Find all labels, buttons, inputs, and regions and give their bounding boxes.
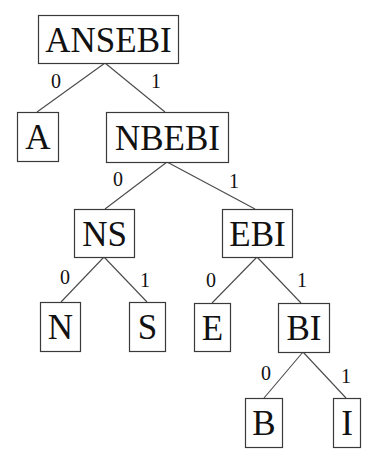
edge-line [37, 63, 105, 112]
node-label: NS [82, 215, 127, 254]
node-label: ANSEBI [45, 21, 171, 60]
node-i: I [334, 399, 361, 448]
edge-label: 0 [60, 266, 70, 288]
edge-bi-b: 0 [261, 352, 303, 398]
edge-label: 1 [229, 170, 239, 192]
edge-label: 1 [151, 70, 161, 92]
edge-line [167, 162, 255, 209]
edge-line [257, 257, 301, 303]
node-label: B [252, 404, 275, 443]
edge-label: 0 [113, 168, 123, 190]
edge-label: 1 [297, 269, 307, 291]
edge-ebi-bi: 1 [257, 257, 307, 303]
edge-ansebi-a: 0 [37, 63, 105, 112]
node-b: B [246, 399, 283, 448]
edge-label: 1 [140, 269, 150, 291]
edge-nbebi-ebi: 1 [167, 162, 255, 209]
node-label: A [25, 118, 51, 157]
node-a: A [18, 113, 59, 162]
edge-ns-s: 1 [104, 257, 150, 302]
edge-ebi-e: 0 [206, 257, 257, 303]
node-ns: NS [75, 210, 135, 258]
node-label: E [202, 309, 223, 348]
node-label: S [138, 308, 157, 347]
node-label: NBEBI [115, 119, 220, 158]
edge-bi-i: 1 [303, 352, 351, 398]
node-bi: BI [279, 304, 330, 353]
node-ebi: EBI [223, 210, 293, 258]
nodes-layer: ANSEBIANBEBINSEBINSEBIBI [18, 16, 361, 448]
node-nbebi: NBEBI [107, 113, 229, 163]
node-label: I [341, 404, 353, 443]
edge-ns-n: 0 [60, 257, 104, 302]
edge-ansebi-nbebi: 1 [105, 63, 165, 112]
edge-label: 0 [261, 362, 271, 384]
edge-line [212, 257, 257, 303]
node-e: E [195, 304, 231, 352]
edge-label: 0 [206, 269, 216, 291]
node-ansebi: ANSEBI [39, 16, 179, 64]
node-label: N [48, 308, 73, 347]
edge-nbebi-ns: 0 [105, 162, 167, 209]
edge-label: 1 [341, 365, 351, 387]
node-label: BI [287, 309, 322, 348]
edge-label: 0 [51, 70, 61, 92]
code-tree-diagram: 0101010101 ANSEBIANBEBINSEBINSEBIBI [0, 0, 373, 463]
node-label: EBI [229, 215, 285, 254]
edge-line [303, 352, 346, 398]
node-n: N [41, 303, 81, 352]
node-s: S [130, 303, 166, 352]
